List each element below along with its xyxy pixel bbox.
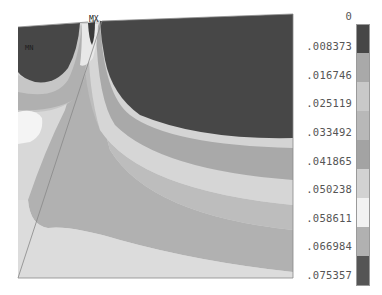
legend-label-7: .058611	[306, 212, 352, 224]
legend-label-1: .008373	[306, 40, 352, 52]
legend-swatch-9	[357, 256, 369, 285]
legend-label-8: .066984	[306, 240, 352, 252]
legend-label-4: .033492	[306, 126, 352, 138]
legend-swatch-2	[357, 53, 369, 82]
contour-plot: MX MN	[0, 0, 300, 295]
legend-swatch-3	[357, 82, 369, 111]
legend-label-3: .025119	[306, 97, 352, 109]
legend-swatch-1	[357, 25, 369, 53]
legend-label-0: 0	[345, 10, 352, 22]
legend-label-2: .016746	[306, 69, 352, 81]
legend-label-5: .041865	[306, 155, 352, 167]
legend-swatch-5	[357, 140, 369, 169]
legend-label-6: .050238	[306, 183, 352, 195]
legend-swatch-7	[357, 198, 369, 227]
legend-swatch-8	[357, 227, 369, 256]
legend-swatch-4	[357, 111, 369, 140]
legend-color-bar	[356, 24, 370, 286]
legend-label-9: .075357	[306, 269, 352, 281]
max-marker-label: MX	[89, 15, 99, 24]
legend-swatch-6	[357, 169, 369, 198]
min-marker-label: MN	[25, 44, 33, 52]
